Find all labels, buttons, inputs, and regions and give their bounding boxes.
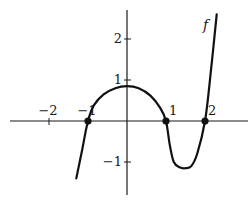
function-label: f bbox=[202, 17, 211, 33]
x-tick-label: −2 bbox=[38, 103, 57, 118]
function-graph: −2−112 −112 f bbox=[0, 0, 249, 206]
y-tick-label: 1 bbox=[114, 72, 122, 87]
root-point bbox=[84, 117, 91, 124]
x-tick-label: 2 bbox=[208, 103, 216, 118]
x-tick-label: 1 bbox=[169, 103, 177, 118]
y-tick-label: 2 bbox=[114, 31, 122, 46]
curve-f bbox=[76, 14, 216, 178]
root-point bbox=[162, 117, 169, 124]
root-point bbox=[201, 117, 208, 124]
y-tick-label: −1 bbox=[103, 154, 122, 169]
